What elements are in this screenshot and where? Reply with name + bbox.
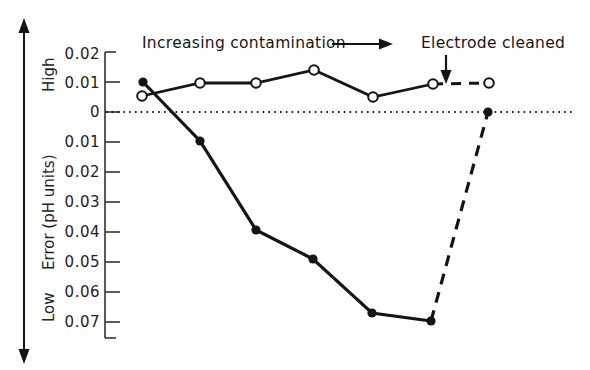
plot-canvas — [0, 0, 590, 370]
right-arrow-icon — [332, 39, 393, 50]
filled-series-dashed-line — [431, 112, 488, 321]
data-point-open — [251, 78, 261, 88]
data-point-filled — [251, 225, 260, 234]
data-point-open — [428, 79, 438, 89]
data-point-open — [309, 65, 319, 75]
data-point-filled — [308, 254, 317, 263]
filled-series-markers — [138, 77, 492, 325]
data-point-filled — [367, 308, 376, 317]
filled-series-line — [143, 82, 431, 321]
data-point-open — [137, 91, 147, 101]
data-point-filled — [483, 107, 492, 116]
open-series-line — [142, 70, 433, 97]
y-axis-spine — [105, 52, 116, 338]
data-point-filled — [426, 316, 435, 325]
data-point-filled — [195, 136, 204, 145]
chart-figure: 0.02 0.01 0 0.01 0.02 0.03 0.04 0.05 0.0… — [0, 0, 590, 370]
open-series-dashed-line — [433, 83, 489, 84]
down-arrow-icon — [441, 55, 452, 84]
y-axis-ticks — [105, 82, 120, 322]
data-point-open — [368, 92, 378, 102]
high-low-arrow-axis — [19, 18, 30, 364]
data-point-open — [484, 78, 494, 88]
data-point-filled — [138, 77, 147, 86]
data-point-open — [195, 78, 205, 88]
